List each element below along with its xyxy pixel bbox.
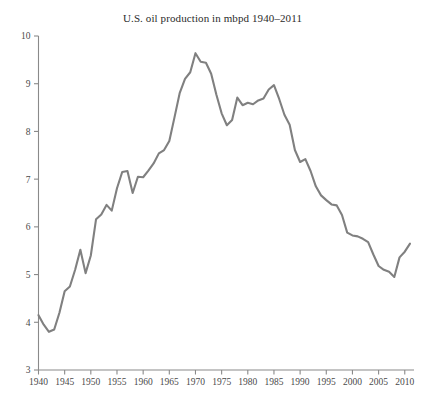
series-line-0 xyxy=(39,53,411,332)
x-axis-tick-label: 1945 xyxy=(55,377,74,387)
x-axis-tick-label: 1950 xyxy=(81,377,100,387)
chart-figure: U.S. oil production in mbpd 1940–2011 34… xyxy=(0,0,425,409)
x-axis-tick-label: 1965 xyxy=(160,377,179,387)
x-axis-tick-label: 1990 xyxy=(291,377,310,387)
x-axis-tick-label: 1940 xyxy=(29,377,48,387)
y-axis-tick-label: 4 xyxy=(26,318,31,328)
x-axis-tick-label: 1985 xyxy=(264,377,283,387)
x-axis-tick-label: 1975 xyxy=(212,377,231,387)
x-axis-tick-label: 1955 xyxy=(107,377,126,387)
y-axis-tick-label: 3 xyxy=(26,365,31,375)
x-axis-tick-label: 2000 xyxy=(343,377,362,387)
y-axis-tick-label: 8 xyxy=(26,127,31,137)
x-axis-tick-label: 1960 xyxy=(134,377,153,387)
y-axis-tick-label: 9 xyxy=(26,79,31,89)
y-axis-tick-label: 10 xyxy=(21,31,31,41)
chart-series xyxy=(39,53,411,332)
y-axis-tick-label: 6 xyxy=(26,222,31,232)
x-axis-tick-label: 1995 xyxy=(317,377,336,387)
y-axis-tick-label: 7 xyxy=(26,175,31,185)
x-axis-tick-label: 2005 xyxy=(369,377,388,387)
x-axis-tick-label: 1980 xyxy=(238,377,257,387)
x-axis-tick-label: 1970 xyxy=(186,377,205,387)
line-chart-plot: 3456789101940194519501955196019651970197… xyxy=(0,0,425,409)
y-axis-tick-label: 5 xyxy=(26,270,31,280)
chart-axes: 3456789101940194519501955196019651970197… xyxy=(21,31,415,387)
x-axis-tick-label: 2010 xyxy=(395,377,414,387)
